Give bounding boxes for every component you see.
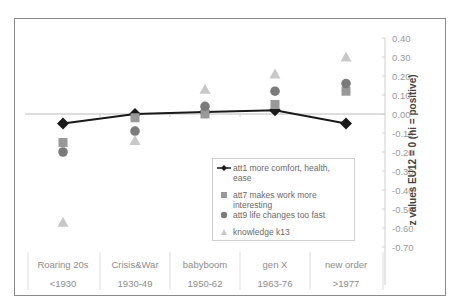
- legend-item-k13: knowledge k13: [217, 227, 350, 237]
- data-point: [200, 84, 211, 94]
- data-point: [130, 135, 141, 145]
- category-period: <1930: [28, 278, 98, 289]
- line-diamond-icon: [217, 163, 231, 173]
- data-point: [200, 102, 210, 112]
- category-period: 1950-62: [170, 278, 240, 289]
- data-point: [270, 86, 280, 96]
- triangle-icon: [217, 227, 231, 237]
- data-point: [340, 118, 352, 130]
- category-period: >1977: [311, 278, 381, 289]
- data-point: [57, 118, 69, 130]
- legend-label: att1 more comfort, health, ease: [233, 163, 350, 183]
- data-point: [131, 113, 140, 122]
- category-name: Crisis&War: [100, 259, 170, 270]
- category-period: 1963-76: [240, 278, 310, 289]
- circle-icon: [217, 210, 231, 220]
- y-tick-label: -0.70: [392, 242, 414, 253]
- category-name: gen X: [240, 259, 310, 270]
- data-point: [341, 52, 352, 62]
- category-name: babyboom: [170, 259, 240, 270]
- data-point: [59, 138, 68, 147]
- data-point: [130, 126, 140, 136]
- legend-item-att1: att1 more comfort, health, ease: [217, 163, 350, 183]
- legend-item-att9: att9 life changes too fast: [217, 210, 350, 220]
- legend-item-att7: att7 makes work moreinteresting: [217, 190, 350, 210]
- y-tick-label: 0.40: [392, 33, 411, 44]
- y-axis-title: z values EU12 = 0 (hi = positive): [407, 60, 421, 240]
- data-point: [270, 69, 281, 79]
- legend-label: knowledge k13: [233, 227, 290, 237]
- square-icon: [217, 190, 231, 200]
- category-name: new order: [311, 259, 381, 270]
- legend-label: att9 life changes too fast: [233, 210, 325, 220]
- legend-label: att7 makes work moreinteresting: [233, 190, 317, 210]
- category-name: Roaring 20s: [28, 259, 98, 270]
- legend: att1 more comfort, health, ease att7 mak…: [212, 158, 355, 241]
- data-point: [58, 217, 69, 227]
- data-point: [58, 147, 68, 157]
- category-period: 1930-49: [100, 278, 170, 289]
- data-point: [271, 100, 280, 109]
- data-point: [341, 79, 351, 89]
